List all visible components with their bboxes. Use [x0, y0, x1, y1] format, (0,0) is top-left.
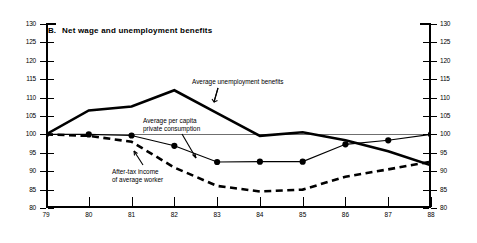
y-tick-label-right: 95 [440, 149, 458, 156]
y-tick-label-left: 110 [18, 94, 36, 101]
y-tick-right [431, 208, 437, 209]
y-tick-label-right: 120 [440, 57, 458, 64]
x-tick-label: 85 [296, 211, 310, 218]
annotation-aftertax-line2: of average worker [112, 176, 163, 184]
data-point-marker [86, 131, 92, 137]
x-tick-label: 87 [381, 211, 395, 218]
y-tick-right [431, 171, 437, 172]
y-tick-label-right: 115 [440, 75, 458, 82]
x-tick-label: 79 [39, 211, 53, 218]
x-tick-label: 80 [82, 211, 96, 218]
series-average-unemployment-benefits [46, 90, 431, 165]
y-tick-right [431, 61, 437, 62]
annotation-consumption: Average per capita private consumption [143, 117, 200, 133]
x-tick [431, 197, 432, 207]
annotation-benefits-text: Average unemployment benefits [192, 78, 284, 85]
data-point-marker [300, 159, 306, 165]
y-tick-label-right: 85 [440, 186, 458, 193]
y-tick-label-left: 120 [18, 57, 36, 64]
annotation-consumption-line2: private consumption [143, 125, 200, 133]
data-point-marker [342, 141, 348, 147]
y-tick-label-left: 95 [18, 149, 36, 156]
y-tick-label-left: 130 [18, 20, 36, 27]
y-tick-label-left: 80 [18, 204, 36, 211]
y-tick-label-right: 90 [440, 167, 458, 174]
y-tick-right [431, 116, 437, 117]
y-tick-label-left: 100 [18, 130, 36, 137]
x-tick-label: 82 [167, 211, 181, 218]
y-tick-left [40, 208, 46, 209]
annotation-benefits: Average unemployment benefits [192, 78, 284, 86]
y-tick-right [431, 42, 437, 43]
y-tick-label-right: 110 [440, 94, 458, 101]
series-svg [46, 24, 431, 208]
annotation-aftertax-line1: After-tax income [112, 168, 163, 176]
data-point-marker [385, 137, 391, 143]
y-tick-right [431, 153, 437, 154]
y-tick-right [423, 208, 429, 209]
y-tick-right [431, 24, 437, 25]
y-tick-label-left: 125 [18, 38, 36, 45]
y-tick-label-left: 115 [18, 75, 36, 82]
y-tick-label-left: 90 [18, 167, 36, 174]
y-tick-label-right: 80 [440, 204, 458, 211]
y-tick-label-left: 85 [18, 186, 36, 193]
plot-area [46, 24, 431, 208]
x-tick-label: 83 [210, 211, 224, 218]
data-point-marker [428, 131, 431, 137]
annotation-aftertax: After-tax income of average worker [112, 168, 163, 184]
y-tick-right [431, 98, 437, 99]
chart-figure: B. Net wage and unemployment benefits 13… [0, 0, 477, 243]
x-tick-label: 88 [424, 211, 438, 218]
y-tick-left [48, 208, 54, 209]
y-tick-right [431, 134, 437, 135]
y-tick-label-right: 130 [440, 20, 458, 27]
annotation-consumption-line1: Average per capita [143, 117, 200, 125]
series-after-tax-income [46, 134, 431, 191]
x-tick-label: 81 [125, 211, 139, 218]
y-tick-right [431, 79, 437, 80]
y-tick-right [431, 190, 437, 191]
data-point-marker [128, 132, 134, 138]
y-tick-label-right: 125 [440, 38, 458, 45]
x-tick-label: 86 [338, 211, 352, 218]
data-point-marker [171, 143, 177, 149]
data-point-marker [214, 159, 220, 165]
y-tick-label-left: 105 [18, 112, 36, 119]
y-tick-label-right: 105 [440, 112, 458, 119]
x-tick-label: 84 [253, 211, 267, 218]
data-point-marker [257, 159, 263, 165]
y-tick-label-right: 100 [440, 130, 458, 137]
